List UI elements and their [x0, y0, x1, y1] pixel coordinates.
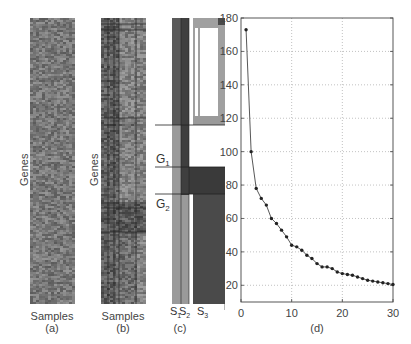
svg-text:20: 20 [336, 307, 348, 319]
row-label-g2: G2 [156, 197, 170, 213]
panel-b-caption: (b) [93, 322, 153, 334]
panel-a-caption: (a) [22, 322, 82, 334]
svg-text:140: 140 [220, 79, 238, 91]
panel-d-caption: (d) [302, 322, 332, 334]
panel-b-ylabel: Genes [88, 146, 100, 186]
panel-a [30, 18, 75, 304]
line-chart-d: 204060801001201401601800102030 [215, 0, 411, 344]
row-label-g1: G1 [156, 152, 170, 168]
svg-text:40: 40 [226, 246, 238, 258]
panel-d: 204060801001201401601800102030 [215, 0, 411, 344]
svg-text:100: 100 [220, 146, 238, 158]
heatmap-a [30, 18, 75, 304]
panel-c-caption: (c) [165, 322, 195, 334]
svg-text:120: 120 [220, 112, 238, 124]
svg-text:60: 60 [226, 212, 238, 224]
svg-text:180: 180 [220, 12, 238, 24]
svg-text:20: 20 [226, 279, 238, 291]
col-label-s3: S3 [197, 305, 208, 319]
svg-text:160: 160 [220, 45, 238, 57]
svg-text:0: 0 [238, 307, 244, 319]
svg-text:80: 80 [226, 179, 238, 191]
panel-a-xlabel: Samples [22, 310, 82, 322]
panel-a-ylabel: Genes [18, 146, 30, 186]
panel-b [101, 18, 146, 304]
panel-b-xlabel: Samples [93, 310, 153, 322]
svg-text:10: 10 [286, 307, 298, 319]
col-label-s2: S2 [179, 305, 190, 319]
svg-text:30: 30 [387, 307, 399, 319]
heatmap-b [101, 18, 146, 304]
